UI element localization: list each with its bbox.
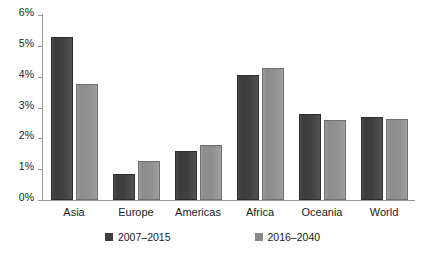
bar-group bbox=[167, 15, 229, 200]
legend-swatch-icon bbox=[105, 233, 113, 241]
bar-group bbox=[353, 15, 415, 200]
bar bbox=[237, 75, 259, 200]
x-axis-label: Asia bbox=[43, 205, 105, 219]
bar bbox=[113, 174, 135, 200]
y-axis-tick-label: 5% bbox=[19, 38, 34, 49]
bar-group bbox=[229, 15, 291, 200]
x-axis-label: World bbox=[353, 205, 415, 219]
y-axis-tick-label: 0% bbox=[19, 192, 34, 203]
x-axis-label: Oceania bbox=[291, 205, 353, 219]
y-axis-tick-mark bbox=[38, 200, 43, 201]
x-axis-label: Americas bbox=[167, 205, 229, 219]
bar-group bbox=[291, 15, 353, 200]
bar bbox=[324, 120, 346, 200]
legend-item[interactable]: 2016–2040 bbox=[255, 231, 321, 243]
bar-chart: 0%1%2%3%4%5%6% AsiaEuropeAmericasAfricaO… bbox=[0, 0, 425, 258]
bar bbox=[76, 84, 98, 200]
bar-group bbox=[43, 15, 105, 200]
bar-group bbox=[105, 15, 167, 200]
y-axis-tick-label: 3% bbox=[19, 100, 34, 111]
legend-swatch-icon bbox=[255, 233, 263, 241]
bar bbox=[299, 114, 321, 200]
y-axis-tick-label: 2% bbox=[19, 130, 34, 141]
y-axis-tick-label: 1% bbox=[19, 161, 34, 172]
bar bbox=[138, 161, 160, 200]
x-axis-line bbox=[42, 200, 415, 201]
bar bbox=[200, 145, 222, 200]
x-axis-label: Africa bbox=[229, 205, 291, 219]
bar bbox=[175, 151, 197, 200]
x-axis-label: Europe bbox=[105, 205, 167, 219]
bar bbox=[361, 117, 383, 200]
chart-legend: 2007–20152016–2040 bbox=[0, 231, 425, 243]
legend-label: 2007–2015 bbox=[118, 231, 171, 243]
bar bbox=[51, 37, 73, 200]
y-axis-tick-label: 4% bbox=[19, 69, 34, 80]
x-axis-category-labels: AsiaEuropeAmericasAfricaOceaniaWorld bbox=[43, 205, 415, 219]
bar bbox=[386, 119, 408, 200]
legend-item[interactable]: 2007–2015 bbox=[105, 231, 171, 243]
plot-area bbox=[43, 15, 415, 200]
legend-label: 2016–2040 bbox=[268, 231, 321, 243]
bar bbox=[262, 68, 284, 200]
y-axis-tick-label: 6% bbox=[19, 7, 34, 18]
